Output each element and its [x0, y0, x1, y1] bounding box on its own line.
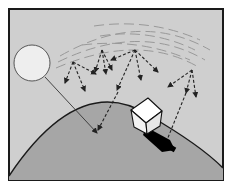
diagram-canvas: [0, 0, 232, 186]
scattering-diagram: [0, 0, 232, 186]
sun-icon: [14, 45, 50, 81]
